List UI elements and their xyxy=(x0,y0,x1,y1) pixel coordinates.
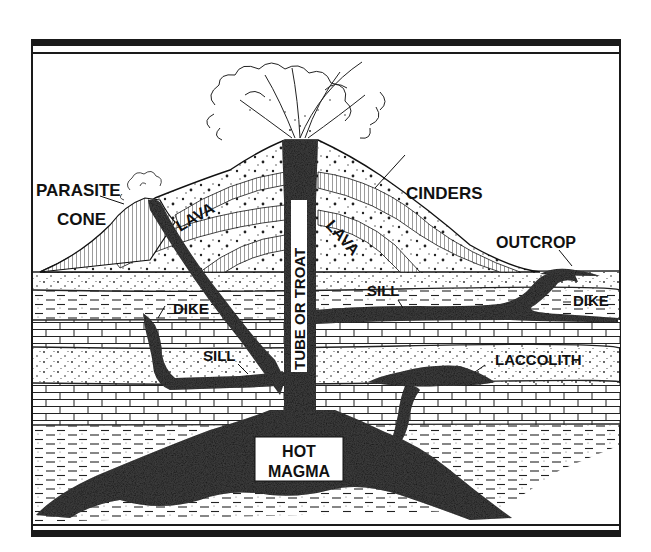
label-parasite-line1: PARASITE xyxy=(36,181,121,200)
volcano-diagram: PARASITE CONE CINDERS LAVA LAVA OUTCROP … xyxy=(0,0,651,552)
label-dike-left: DIKE xyxy=(173,300,209,317)
parasite-cone-smoke xyxy=(120,171,161,200)
label-hot: HOT xyxy=(282,443,316,460)
label-sill-lower: SILL xyxy=(203,347,236,364)
label-sill-upper: SILL xyxy=(367,282,400,299)
label-parasite-line2: CONE xyxy=(57,210,106,229)
outcrop-leader xyxy=(559,250,572,266)
eruption-cloud xyxy=(207,62,385,140)
label-laccolith: LACCOLITH xyxy=(495,351,582,368)
label-cinders: CINDERS xyxy=(406,184,483,203)
label-outcrop: OUTCROP xyxy=(496,234,576,251)
limestone-layer-upper xyxy=(33,320,620,347)
label-tube: TUBE OR TROAT xyxy=(291,248,308,370)
label-magma: MAGMA xyxy=(268,463,331,480)
label-dike-right: DIKE xyxy=(573,292,609,309)
